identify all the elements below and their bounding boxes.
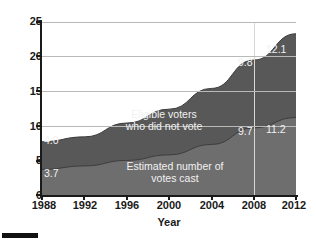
series-label-did-not-vote: Eligible voters who did not vote [104, 108, 224, 132]
area-chart-figure: 25 20 15 10 5 0 1988 1992 1996 2000 2004… [0, 0, 316, 242]
y-tick-label-5: 5 [12, 155, 42, 166]
x-axis-title: Year [42, 216, 296, 228]
gridline-20 [42, 56, 296, 57]
marker-line-2008 [254, 22, 255, 195]
series-label-did-not-vote-line2: who did not vote [104, 120, 224, 132]
x-tick-label-2012: 2012 [271, 200, 316, 211]
scan-artifact-bar [2, 233, 38, 238]
gridline-25 [42, 22, 296, 23]
x-tick-label-1996: 1996 [104, 200, 150, 211]
series-label-did-not-vote-line1: Eligible voters [104, 108, 224, 120]
series-label-votes-cast: Estimated number of votes cast [110, 160, 240, 184]
x-tick-label-1992: 1992 [62, 200, 108, 211]
y-tick-label-10: 10 [12, 121, 42, 132]
y-tick-label-15: 15 [12, 86, 42, 97]
series-label-votes-cast-line2: votes cast [110, 172, 240, 184]
series-label-votes-cast-line1: Estimated number of [110, 160, 240, 172]
data-value-did-not-vote-2008: 9.8 [238, 57, 253, 68]
data-value-votes-cast-2012: 11.2 [266, 124, 286, 135]
y-tick-label-25: 25 [12, 16, 42, 27]
y-tick-label-20: 20 [12, 51, 42, 62]
x-tick-label-1988: 1988 [21, 200, 67, 211]
data-value-votes-cast-1988: 3.7 [44, 168, 59, 179]
data-value-votes-cast-2008: 9.7 [238, 126, 253, 137]
x-tick-label-2004: 2004 [189, 200, 235, 211]
data-value-did-not-vote-1988: 4.0 [44, 135, 59, 146]
x-tick-label-2000: 2000 [146, 200, 192, 211]
y-axis-line [40, 20, 42, 197]
data-value-did-not-vote-2012: 12.1 [266, 44, 286, 55]
gridline-15 [42, 91, 296, 92]
